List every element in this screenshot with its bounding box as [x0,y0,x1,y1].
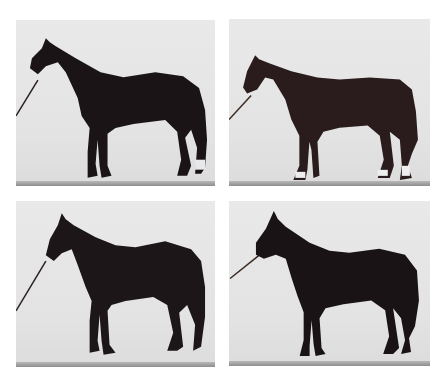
horse-silhouette [229,201,430,366]
horse-silhouette [229,19,430,186]
horse-photo-top-right [229,19,430,186]
floor-line [229,181,430,186]
horse-photo-top-left [16,20,215,186]
floor-line [229,361,430,366]
horse-silhouette [16,20,215,186]
horse-silhouette [16,201,215,367]
floor-line [16,362,215,367]
horse-photo-bottom-right [229,201,430,366]
floor-line [16,181,215,186]
horse-photo-bottom-left [16,201,215,367]
